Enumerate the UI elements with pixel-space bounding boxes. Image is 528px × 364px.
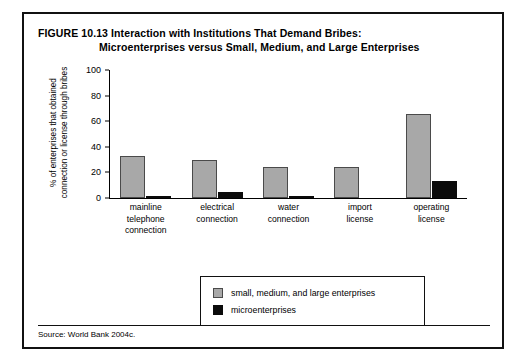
legend-label-micro: microenterprises (231, 305, 296, 315)
chart-legend: small, medium, and large enterprises mic… (200, 276, 425, 326)
y-axis-label-line-2: connection or license through bribes (59, 57, 70, 209)
bar-smle[interactable] (406, 114, 431, 198)
y-axis-ticks: 020406080100 (76, 70, 106, 198)
x-axis-label-line: connection (181, 214, 252, 226)
figure-frame: FIGURE 10.13 Interaction with Institutio… (22, 12, 504, 349)
bar-group (253, 70, 324, 198)
x-axis-label-line: electrical (181, 202, 252, 214)
bar-micro[interactable] (146, 196, 171, 198)
bar-smle[interactable] (263, 167, 288, 198)
figure-title-text-1: Interaction with Institutions That Deman… (111, 27, 362, 39)
legend-item-micro: microenterprises (213, 301, 414, 318)
bar-micro[interactable] (432, 181, 457, 198)
x-axis-label-line: license (324, 214, 395, 226)
x-axis-label-line: water (253, 202, 324, 214)
x-axis-label-4: operatinglicense (396, 202, 467, 237)
x-axis-labels: mainlinetelephoneconnectionelectricalcon… (110, 202, 467, 237)
y-axis-label-line-1: % of enterprises that obtained (49, 57, 60, 209)
legend-label-smle: small, medium, and large enterprises (231, 288, 375, 298)
bar-micro[interactable] (289, 196, 314, 198)
x-axis-label-1: electricalconnection (181, 202, 252, 237)
x-axis-label-line: license (396, 214, 467, 226)
bar-smle[interactable] (120, 156, 145, 198)
bar-micro[interactable] (218, 192, 243, 198)
bar-group (324, 70, 395, 198)
x-axis-label-line: operating (396, 202, 467, 214)
y-tick-label-0: 0 (77, 194, 101, 203)
bar-groups (110, 70, 467, 198)
y-axis-label: % of enterprises that obtained connectio… (49, 57, 70, 209)
y-tick-label-60: 60 (77, 117, 101, 126)
x-axis-line (109, 198, 467, 199)
x-axis-label-line: telephone (110, 214, 181, 226)
source-note: Source: World Bank 2004c. (38, 330, 135, 340)
x-axis-label-0: mainlinetelephoneconnection (110, 202, 181, 237)
x-axis-label-line: mainline (110, 202, 181, 214)
y-tick-label-40: 40 (77, 142, 101, 151)
x-axis-label-2: waterconnection (253, 202, 324, 237)
source-divider (38, 325, 490, 326)
legend-swatch-icon-micro (213, 305, 223, 315)
bar-group (396, 70, 467, 198)
bar-smle[interactable] (334, 167, 359, 198)
y-tick-label-80: 80 (77, 91, 101, 100)
x-axis-label-3: importlicense (324, 202, 395, 237)
legend-swatch-icon-smle (213, 288, 223, 298)
y-tick-label-20: 20 (77, 168, 101, 177)
x-axis-label-line: import (324, 202, 395, 214)
bar-group (110, 70, 181, 198)
figure-title-block: FIGURE 10.13 Interaction with Institutio… (38, 27, 490, 54)
figure-number: FIGURE 10.13 (38, 27, 108, 39)
x-axis-label-line: connection (253, 214, 324, 226)
bar-smle[interactable] (192, 160, 217, 198)
figure-title-line-2: Microenterprises versus Small, Medium, a… (38, 41, 490, 55)
figure-title-line-1: FIGURE 10.13 Interaction with Institutio… (38, 27, 490, 41)
legend-item-smle: small, medium, and large enterprises (213, 284, 414, 301)
y-tick-label-100: 100 (77, 66, 101, 75)
plot-area: % of enterprises that obtained connectio… (24, 62, 502, 237)
x-axis-label-line: connection (110, 225, 181, 237)
bar-group (181, 70, 252, 198)
